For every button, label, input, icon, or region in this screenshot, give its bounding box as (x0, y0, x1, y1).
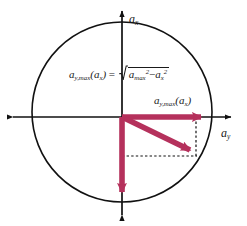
combined-acceleration-vector (122, 117, 190, 150)
equation-ay-max: ay,max(ax) = amax2−ax2 (69, 66, 169, 80)
equation-lhs-paren-close: ) (102, 68, 106, 80)
radicand-term1-sup: 2 (146, 68, 149, 75)
acceleration-limit-diagram: ax ay ay,max(ax) = amax2−ax2 ay,max(ax) (0, 0, 247, 226)
axis-label-horizontal-sub: y (227, 132, 230, 141)
square-root-icon: amax2−ax2 (119, 66, 169, 80)
axis-label-vertical: ax (129, 13, 138, 25)
equation-lhs-sub: y,max (75, 74, 91, 81)
diagram-canvas (0, 0, 247, 226)
equation-equals-sign: = (109, 68, 115, 80)
vector-label-sub: y,max (160, 100, 176, 107)
vector-label-base: a (154, 94, 160, 106)
radicand-term2-sub: x (161, 74, 164, 81)
equation-radicand: amax2−ax2 (128, 67, 169, 80)
vector-label-arg-sub: x (184, 100, 187, 107)
vector-label-paren-close: ) (187, 94, 191, 106)
vector-label-ay-max: ay,max(ax) (154, 95, 191, 106)
axis-label-vertical-sub: x (135, 18, 138, 27)
equation-lhs-base: a (69, 68, 75, 80)
axis-label-horizontal: ay (221, 127, 230, 139)
radicand-term1-sub: max (134, 74, 145, 81)
radicand-term2-base: a (155, 68, 161, 80)
equation-lhs-arg-sub: x (99, 74, 102, 81)
radicand-term2-sup: 2 (164, 68, 167, 75)
radical-sign-glyph (119, 65, 128, 80)
